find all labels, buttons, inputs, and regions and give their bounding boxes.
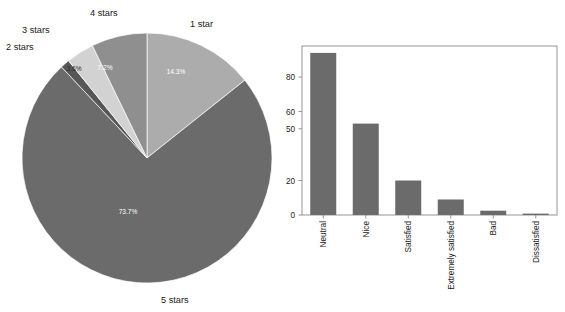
x-tick-label-satisfied: Satisfied xyxy=(404,221,413,253)
pct-label-four-stars: 7.2% xyxy=(97,64,112,71)
x-tick-label-nice: Nice xyxy=(362,221,371,238)
pie xyxy=(22,33,272,283)
y-tick-label-20: 20 xyxy=(286,177,296,186)
bar-chart-svg: 0 20 50 60 80 Neutral Nice Sati xyxy=(278,0,565,312)
pie-label-three-stars: 3 stars xyxy=(22,25,50,35)
pie-label-two-stars: 2 stars xyxy=(6,42,34,52)
pie-label-five-stars: 5 stars xyxy=(161,295,189,305)
y-tick-label-80: 80 xyxy=(286,73,296,82)
pct-label-three-stars: 3.6% xyxy=(66,65,81,72)
pct-label-five-stars: 73.7% xyxy=(119,208,138,215)
x-tick-label-neutral: Neutral xyxy=(319,221,328,248)
figure-canvas: 14.3% 1.2% 3.6% 7.2% 73.7% 1 star 2 star… xyxy=(0,0,565,312)
x-tick-label-extremely-satisfied: Extremely satisfied xyxy=(447,221,456,290)
y-axis-ticks: 0 20 50 60 80 xyxy=(286,73,302,220)
y-tick-label-60: 60 xyxy=(286,108,296,117)
x-axis-ticks xyxy=(323,215,536,219)
bar-dissatisfied[interactable] xyxy=(523,214,549,215)
bar-extremely-satisfied[interactable] xyxy=(438,199,464,215)
bar-nice[interactable] xyxy=(353,124,379,215)
pct-label-one-star: 14.3% xyxy=(167,68,186,75)
bar-satisfied[interactable] xyxy=(395,181,421,215)
x-tick-label-bad: Bad xyxy=(489,221,498,236)
pie-chart-svg: 14.3% 1.2% 3.6% 7.2% 73.7% 1 star 2 star… xyxy=(0,0,295,312)
pie-label-four-stars: 4 stars xyxy=(90,8,118,18)
bar-neutral[interactable] xyxy=(310,53,336,215)
pie-chart-panel: 14.3% 1.2% 3.6% 7.2% 73.7% 1 star 2 star… xyxy=(0,0,295,312)
bars xyxy=(310,53,549,215)
x-axis-labels: Neutral Nice Satisfied Extremely satisfi… xyxy=(319,221,541,290)
x-tick-label-dissatisfied: Dissatisfied xyxy=(532,221,541,263)
y-tick-label-50: 50 xyxy=(286,125,296,134)
plot-frame xyxy=(302,46,557,215)
bar-bad[interactable] xyxy=(480,211,506,215)
y-tick-label-0: 0 xyxy=(290,211,295,220)
pct-label-two-stars: 1.2% xyxy=(43,64,58,71)
pie-label-one-star: 1 star xyxy=(190,19,213,29)
bar-chart-panel: 0 20 50 60 80 Neutral Nice Sati xyxy=(278,0,565,312)
